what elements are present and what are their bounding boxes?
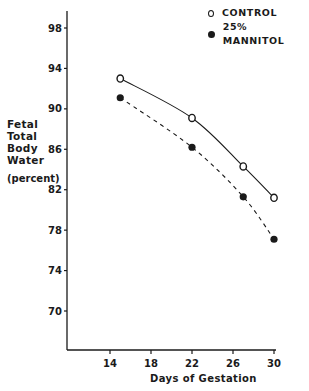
x-tick-label: 30 [267,358,281,369]
legend-label: 25% MANNITOL [223,20,309,48]
filled-circle-marker [117,94,124,101]
x-tick-label: 14 [103,358,117,369]
y-tick-label: 94 [48,63,62,74]
legend-item-mannitol: 25% MANNITOL [208,20,309,48]
open-circle-marker [117,75,123,82]
y-label-line: Total [7,130,44,142]
y-label-line: Body [7,142,44,154]
axes: 70747882869094981418222630 [48,11,281,369]
y-axis-unit: (percent) [7,173,60,184]
filled-circle-marker [270,236,277,243]
legend-item-control: CONTROL [208,6,309,20]
mannitol-curve [120,98,274,240]
x-tick-label: 18 [144,358,158,369]
y-tick-label: 78 [48,225,62,236]
filled-circle-icon [208,31,215,38]
y-label-line: Water [7,154,44,166]
y-label-line: Fetal [7,118,44,130]
open-circle-marker [240,163,246,170]
y-tick-label: 86 [48,144,62,155]
x-axis-label: Days of Gestation [150,373,257,384]
legend: CONTROL 25% MANNITOL [208,6,309,48]
y-tick-label: 98 [48,23,62,34]
y-tick-label: 70 [48,306,62,317]
data-series [117,75,278,243]
y-tick-label: 74 [48,265,62,276]
y-tick-label: 90 [48,103,62,114]
y-axis-label: Fetal Total Body Water [7,118,44,166]
open-circle-marker [189,114,195,121]
control-curve [120,79,274,198]
x-tick-label: 26 [226,358,240,369]
filled-circle-marker [188,144,195,151]
y-tick-label: 82 [48,184,62,195]
chart-plot-area: 70747882869094981418222630 [0,0,309,391]
legend-label: CONTROL [222,6,277,20]
open-circle-icon [208,10,214,17]
x-tick-label: 22 [185,358,199,369]
open-circle-marker [271,194,277,201]
filled-circle-marker [240,193,247,200]
